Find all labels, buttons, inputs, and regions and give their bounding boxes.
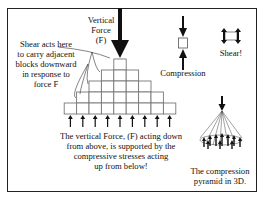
shear-icon (221, 28, 241, 44)
vertical-force-label-line: (F) (84, 35, 118, 45)
compression-label: Compression (160, 68, 206, 78)
vertical-force-label-line: Force (84, 25, 118, 35)
main-caption-line: from above, is supported by the (46, 141, 196, 151)
vertical-force-label-line: Vertical (84, 15, 118, 25)
main-caption-line: compressive stresses acting (46, 151, 196, 161)
compression-icon (179, 16, 188, 70)
pyramid-3d-caption: The compression pyramid in 3D. (184, 166, 256, 186)
main-caption-line: The vertical Force, (F) acting down (46, 131, 196, 141)
shear-note-line: blocks downward (10, 59, 82, 69)
shear-note-line: force F (10, 79, 82, 89)
shear-label: Shear! (216, 48, 246, 58)
main-caption-line: up from below! (46, 161, 196, 171)
shear-note: Shear acts here to carry adjacent blocks… (10, 39, 82, 89)
pyramid-3d-caption-line: pyramid in 3D. (184, 176, 256, 186)
support-arrows (68, 115, 172, 127)
compression-pyramid-3d-icon (200, 96, 242, 149)
shear-note-line: Shear acts here (10, 39, 82, 49)
shear-note-line: to carry adjacent (10, 49, 82, 59)
shear-note-line: in response to (10, 69, 82, 79)
vertical-force-label: Vertical Force (F) (84, 15, 118, 45)
main-caption: The vertical Force, (F) acting down from… (46, 131, 196, 171)
pyramid-3d-caption-line: The compression (184, 166, 256, 176)
